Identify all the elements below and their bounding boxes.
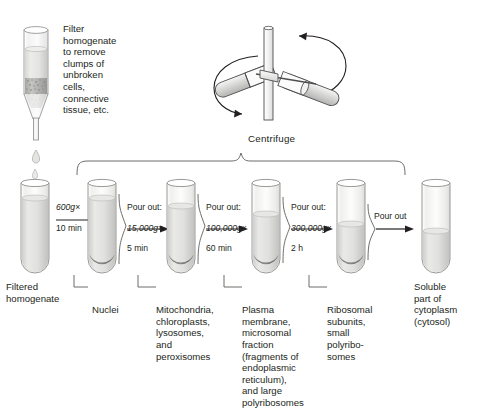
bracket-step-3 <box>222 273 248 295</box>
tube-label-step-3: Plasma membrane, microsomal fraction (fr… <box>226 281 300 409</box>
times-step-4: × <box>327 223 332 233</box>
duration-step-1: 10 min <box>56 223 82 233</box>
times-step-1: × <box>75 202 80 212</box>
arrow-step-5 <box>376 224 414 234</box>
bracket-step-1 <box>72 273 94 295</box>
tube-step-0 <box>17 176 53 274</box>
pour-step-2: Pour out: <box>127 202 162 212</box>
bracket-step-4 <box>307 273 333 295</box>
pour-brace-step-1 <box>118 193 127 265</box>
centrifuge-brace <box>76 152 406 176</box>
filter-note-text: Filter homogenate to remove clumps of un… <box>63 23 135 116</box>
tube-label-step-0: Filtered homogenate <box>6 281 72 304</box>
centrifuge-illustration <box>196 22 366 132</box>
speed-step-1: 600g <box>56 202 75 212</box>
centrifuge-label: Centrifuge <box>248 133 295 144</box>
pour-step-3: Pour out: <box>206 202 241 212</box>
duration-step-3: 60 min <box>206 243 232 253</box>
pour-brace-step-2 <box>197 193 206 265</box>
times-step-3: × <box>242 223 247 233</box>
pour-step-5: Pour out <box>374 211 418 221</box>
tube-step-4 <box>333 176 369 274</box>
tube-label-step-1: Nuclei <box>76 281 136 316</box>
tube-label-step-4: Ribosomal subunits, small polyribo- some… <box>311 281 373 362</box>
duration-step-2: 5 min <box>127 243 148 253</box>
bracket-step-2 <box>136 273 162 295</box>
tube-step-5 <box>418 176 454 274</box>
pour-step-4: Pour out: <box>291 202 326 212</box>
tube-step-2 <box>163 176 199 274</box>
duration-step-4: 2 h <box>291 243 303 253</box>
speed-step-2: 15,000g <box>127 223 158 233</box>
tube-step-1 <box>84 176 120 274</box>
tube-label-step-2: Mitochondria, chloroplasts, lysosomes, a… <box>140 281 212 362</box>
speed-step-3: 100,000g <box>206 223 242 233</box>
tube-step-3 <box>248 176 284 274</box>
tube-label-step-5: Soluble part of cytoplasm (cytosol) <box>414 281 476 327</box>
speed-step-4: 300,000g <box>291 223 327 233</box>
pour-brace-step-3 <box>282 196 291 264</box>
